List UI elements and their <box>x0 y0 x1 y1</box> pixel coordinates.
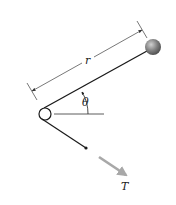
string-end-dot <box>84 146 87 149</box>
rod <box>44 51 147 108</box>
string <box>42 119 86 148</box>
force-arrow <box>99 157 126 175</box>
pulley-diagram: r θ T <box>0 0 176 205</box>
dimension-tick-right <box>137 21 147 38</box>
dimension-tick-left <box>27 83 37 100</box>
radius-label: r <box>85 54 91 67</box>
dimension-line-left <box>32 63 82 91</box>
ball-mass <box>145 39 161 55</box>
angle-label: θ <box>82 96 89 109</box>
force-label: T <box>121 180 130 193</box>
dimension-line-right <box>94 30 142 57</box>
pulley <box>39 108 51 120</box>
